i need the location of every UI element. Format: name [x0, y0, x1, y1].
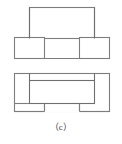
right-foot-rectangle [80, 38, 110, 59]
top-span-rectangle [30, 8, 95, 39]
left-foot-rectangle [15, 38, 45, 59]
figure-container: （c） [0, 0, 122, 144]
inner-rectangle [30, 81, 95, 104]
figure-caption: （c） [0, 122, 122, 133]
lower-view-group [15, 74, 110, 112]
